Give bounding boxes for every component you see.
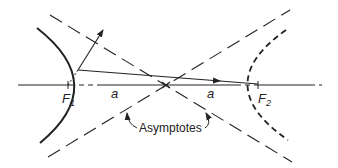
asymptote-descending <box>50 15 292 162</box>
distance-a-right: a <box>207 86 214 101</box>
hyperbola-diagram: F1 F2 a a Asymptotes <box>0 0 338 168</box>
asymptotes-label: Asymptotes <box>139 121 202 135</box>
asymptote-leader-left <box>127 113 137 128</box>
ray-to-f2-continued <box>220 81 258 84</box>
ray-to-f2 <box>78 70 220 81</box>
reflected-ray <box>78 30 103 70</box>
distance-a-left: a <box>111 86 118 101</box>
asymptote-leader-right <box>205 113 209 128</box>
focus2-label: F2 <box>258 91 271 108</box>
